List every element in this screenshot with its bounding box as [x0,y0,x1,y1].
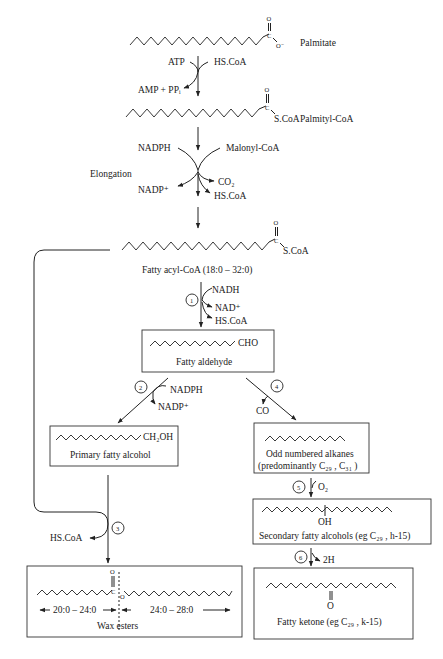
svg-text:S.CoA: S.CoA [283,246,309,256]
svg-text:S.CoA: S.CoA [274,114,300,124]
nad-plus-label: NAD⁺ [215,303,241,313]
hs-coa-step1-label: HS.CoA [215,316,248,326]
svg-text:C: C [265,104,269,111]
step-5-reaction: 5 O₂ [293,478,328,497]
step-3-reaction: 3 HS.CoA [50,475,124,563]
svg-text:1: 1 [190,297,193,304]
svg-text:3: 3 [116,525,119,532]
left-chain-range: 20:0 – 24:0 [53,605,97,615]
fatty-aldehyde-label: Fatty aldehyde [176,357,232,367]
wax-esters-box: C O O 20:0 – 24:0 24:0 – 28:0 Wax esters [27,566,242,637]
alkanes-box: Odd numbered alkanes (predominantly C₂₉ … [254,423,369,473]
malonyl-coa-label: Malonyl-CoA [226,143,279,153]
palmitate-molecule: C O O⁻ [130,15,284,49]
activation-reaction: ATP HS.CoA AMP + PPᵢ [138,56,247,96]
step-2-reaction: 2 NADPH NADP⁺ [118,378,203,423]
right-chain-range: 24:0 – 28:0 [150,605,194,615]
nadh-label: NADH [212,285,240,295]
acyl-coa-to-ester-line [34,250,110,538]
amp-ppi-label: AMP + PPᵢ [138,85,181,95]
fatty-acyl-coa-label: Fatty acyl-CoA (18:0 – 32:0) [142,265,252,276]
nadp-plus-step2-label: NADP⁺ [158,402,189,412]
secondary-alcohols-box: OH Secondary fatty alcohols (eg C₂₉ , h-… [253,499,431,544]
svg-text:CHO: CHO [238,338,258,348]
svg-text:2: 2 [139,384,142,391]
co-label: CO [256,406,269,416]
svg-text:OH: OH [318,517,332,527]
svg-text:O: O [327,601,334,611]
fatty-ketone-box: O Fatty ketone (eg C₂₉ , k-15) [254,568,413,639]
palmityl-coa-label: Palmityl-CoA [300,114,353,124]
nadph-label: NADPH [138,143,171,153]
atp-label: ATP [168,57,185,67]
elongation-label: Elongation [90,169,132,179]
svg-text:O: O [110,568,115,575]
o2-label: O₂ [318,482,328,492]
wax-biosynthesis-diagram: C O O⁻ Palmitate ATP HS.CoA AMP + PPᵢ C … [0,0,443,659]
wax-esters-label: Wax esters [97,621,138,631]
svg-text:CH₂OH: CH₂OH [143,432,173,442]
secondary-alcohols-label: Secondary fatty alcohols (eg C₂₉ , h-15) [259,531,410,542]
svg-text:5: 5 [297,484,300,491]
primary-fatty-alcohol-label: Primary fatty alcohol [70,450,151,460]
co2-label: CO₂ [218,177,235,187]
svg-text:O: O [265,86,270,93]
hs-coa-out-label: HS.CoA [214,191,247,201]
nadp-plus-label: NADP⁺ [138,185,169,195]
step-6-reaction: 6 2H [295,548,335,566]
2h-label: 2H [323,555,335,565]
fatty-aldehyde-box: CHO Fatty aldehyde [142,330,274,372]
svg-text:O: O [120,593,125,600]
svg-text:O: O [274,219,279,226]
alkanes-label: Odd numbered alkanes [266,449,354,459]
svg-text:O⁻: O⁻ [276,42,284,49]
step-4-reaction: 4 CO [246,378,296,420]
alkanes-sublabel: (predominantly C₂₉ , C₃₁ ) [258,461,358,472]
palmitate-label: Palmitate [300,38,336,48]
primary-fatty-alcohol-box: CH₂OH Primary fatty alcohol [50,426,178,466]
fatty-ketone-label: Fatty ketone (eg C₂₉ , k-15) [277,617,382,628]
step-1-reaction: 1 NADH NAD⁺ HS.CoA [186,282,248,327]
hs-coa-step3-label: HS.CoA [50,533,83,543]
svg-text:C: C [111,588,115,595]
nadph-step2-label: NADPH [170,385,203,395]
svg-text:O: O [267,15,272,22]
svg-text:C: C [274,237,278,244]
hs-coa-label: HS.CoA [214,57,247,67]
svg-text:C: C [267,32,271,39]
elongation-reaction: NADPH Malonyl-CoA Elongation NADP⁺ CO₂ H… [90,127,279,228]
fatty-acyl-coa-molecule: C O S.CoA [122,219,309,256]
